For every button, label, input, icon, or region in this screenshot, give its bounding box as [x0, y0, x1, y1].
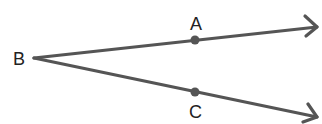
point-a — [191, 36, 200, 45]
ray-ba-arrowhead — [305, 16, 317, 36]
angle-diagram: B A C — [0, 0, 322, 124]
point-c — [191, 88, 200, 97]
label-c: C — [189, 102, 202, 122]
label-a: A — [190, 14, 202, 34]
label-b: B — [13, 49, 25, 69]
ray-bc — [34, 58, 317, 117]
ray-ba — [34, 27, 317, 58]
